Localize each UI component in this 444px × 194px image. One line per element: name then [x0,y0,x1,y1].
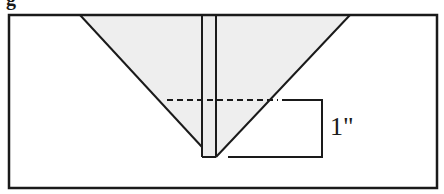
dimension-label: 1" [330,114,354,140]
strip-fill [202,15,216,157]
diagram: g 1" [0,0,444,194]
diagram-canvas [0,0,444,194]
